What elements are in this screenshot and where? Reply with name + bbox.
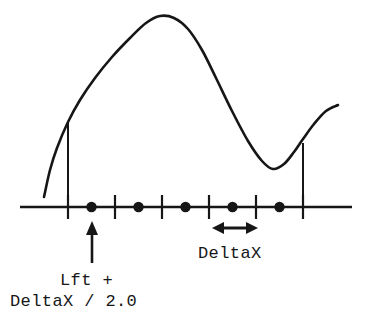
midpoint-dot-3	[227, 202, 237, 212]
double-headed-arrow-icon	[212, 222, 258, 234]
diagram-graphics	[20, 16, 352, 263]
midpoint-dot-2	[180, 202, 190, 212]
midpoint-dot-4	[274, 202, 284, 212]
figure-canvas: DeltaX Lft + DeltaX / 2.0	[0, 0, 367, 316]
midpoint-dot-1	[133, 202, 143, 212]
delta-x-arrow-head-left	[212, 222, 224, 234]
delta-x-arrow-head-right	[246, 222, 258, 234]
diagram-svg	[0, 0, 367, 316]
midpoint-dot-0	[86, 202, 96, 212]
arrow-up-icon	[86, 221, 98, 263]
midpoint-arrow-head	[86, 221, 98, 235]
function-curve	[44, 16, 338, 197]
